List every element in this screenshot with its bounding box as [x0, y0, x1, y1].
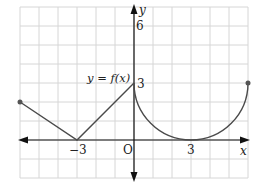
- endpoint-left: [18, 100, 23, 105]
- function-label: y = f(x): [86, 71, 130, 85]
- function-graph: y 6 3 y = f(x) −3 O 3 x: [0, 0, 262, 191]
- x-tick-neg3: −3: [69, 143, 87, 157]
- y-axis-arrow-down-icon: [131, 172, 138, 182]
- endpoint-right: [246, 81, 251, 86]
- x-tick-3: 3: [187, 143, 195, 157]
- y-axis-arrow-up-icon: [131, 4, 138, 14]
- y-axis-label: y: [138, 3, 146, 17]
- x-axis-label: x: [240, 144, 247, 158]
- origin-label: O: [123, 143, 133, 157]
- y-tick-6: 6: [136, 19, 144, 33]
- y-tick-3: 3: [137, 77, 145, 91]
